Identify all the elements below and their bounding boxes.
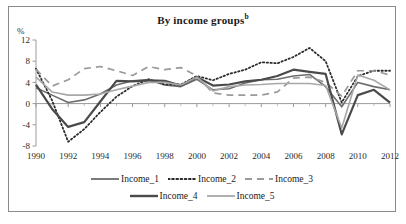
legend-swatch-income-1: [91, 175, 119, 183]
x-axis-tick-label: 1990: [27, 151, 46, 161]
chart-legend: Income_1 Income_2 Income_3 Income_4 Inco…: [8, 170, 396, 204]
legend-label-income-3: Income_3: [275, 174, 313, 184]
legend-label-income-5: Income_5: [237, 191, 275, 201]
chart-figure: By income groupsb % 12840-4-819901992199…: [0, 0, 406, 224]
legend-item-income-2[interactable]: Income_2: [168, 174, 236, 184]
x-axis-tick-label: 2008: [317, 151, 336, 161]
legend-swatch-income-5: [207, 192, 235, 200]
legend-item-income-1[interactable]: Income_1: [91, 174, 159, 184]
x-axis-tick-label: 2006: [284, 151, 303, 161]
legend-row-2: Income_4 Income_5: [8, 187, 396, 204]
x-axis-tick-label: 2002: [220, 151, 238, 161]
legend-label-income-1: Income_1: [121, 174, 159, 184]
x-axis-tick-label: 2004: [252, 151, 271, 161]
y-axis-tick-label: -4: [23, 120, 31, 130]
x-axis-tick-label: 2012: [381, 151, 399, 161]
x-axis-tick-label: 1998: [156, 151, 175, 161]
x-axis-tick-label: 2000: [188, 151, 207, 161]
y-axis-tick-label: -8: [23, 141, 31, 151]
legend-swatch-income-4: [130, 192, 158, 200]
x-axis-tick-label: 1992: [59, 151, 77, 161]
legend-item-income-5[interactable]: Income_5: [207, 191, 275, 201]
legend-swatch-income-3: [245, 175, 273, 183]
y-axis-tick-label: 0: [26, 99, 31, 109]
legend-row-1: Income_1 Income_2 Income_3: [8, 170, 396, 187]
x-axis-tick-label: 2010: [349, 151, 368, 161]
y-axis-tick-label: 12: [21, 35, 30, 45]
legend-item-income-3[interactable]: Income_3: [245, 174, 313, 184]
x-axis-tick-label: 1994: [91, 151, 110, 161]
legend-swatch-income-2: [168, 175, 196, 183]
legend-label-income-2: Income_2: [198, 174, 236, 184]
legend-label-income-4: Income_4: [160, 191, 198, 201]
legend-item-income-4[interactable]: Income_4: [130, 191, 198, 201]
series-line-income-3: [36, 67, 390, 97]
y-axis-tick-label: 4: [26, 78, 31, 88]
x-axis-tick-label: 1996: [124, 151, 143, 161]
y-axis-tick-label: 8: [26, 56, 31, 66]
